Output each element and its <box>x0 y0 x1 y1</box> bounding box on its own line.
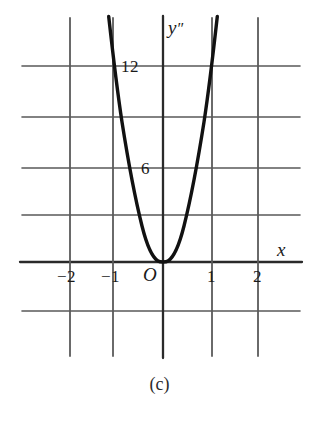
y-axis-label: y″ <box>168 18 183 37</box>
x-tick-label-2: 2 <box>253 268 262 285</box>
x-tick-label-1: 1 <box>207 268 216 285</box>
x-axis-label: x <box>277 240 285 259</box>
y-tick-label-12: 12 <box>121 58 139 75</box>
graph-plot-area <box>0 0 319 426</box>
x-tick-label-neg1: −1 <box>101 268 120 285</box>
figure-caption: (c) <box>0 374 319 395</box>
origin-label: O <box>143 265 157 284</box>
figure-container: 12 6 −2 −1 O 1 2 y″ x (c) <box>0 0 319 426</box>
y-tick-label-6: 6 <box>141 160 150 177</box>
x-tick-label-neg2: −2 <box>57 268 76 285</box>
double-prime-icon: ″ <box>176 20 182 37</box>
